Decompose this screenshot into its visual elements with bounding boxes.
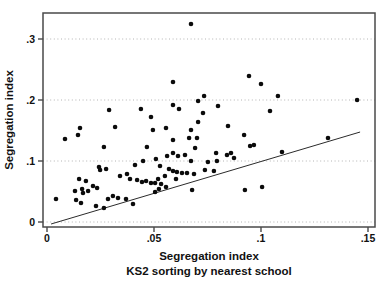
data-point bbox=[145, 145, 150, 150]
data-point bbox=[151, 128, 156, 133]
data-point bbox=[116, 196, 121, 201]
data-point bbox=[232, 156, 237, 161]
data-point bbox=[268, 109, 273, 114]
data-point bbox=[189, 159, 194, 164]
data-point bbox=[153, 190, 158, 195]
scatter-chart: 0.1.2.30.05.1.15 Segregation index Segre… bbox=[0, 0, 389, 294]
data-point bbox=[164, 185, 169, 190]
data-point bbox=[154, 157, 159, 162]
data-point bbox=[104, 167, 109, 172]
data-point bbox=[326, 136, 331, 141]
data-point bbox=[141, 159, 146, 164]
data-point bbox=[195, 136, 200, 141]
data-point bbox=[171, 103, 176, 108]
data-point bbox=[171, 151, 176, 156]
y-tick-label: .3 bbox=[26, 33, 35, 45]
data-point bbox=[113, 125, 118, 130]
data-point bbox=[78, 126, 83, 131]
data-point bbox=[189, 128, 194, 133]
data-point bbox=[202, 94, 207, 99]
y-tick-label: .1 bbox=[26, 155, 35, 167]
data-point bbox=[201, 111, 206, 116]
x-axis-subtitle: KS2 sorting by nearest school bbox=[43, 265, 375, 277]
data-point bbox=[91, 184, 96, 189]
data-point bbox=[189, 22, 194, 27]
data-point bbox=[133, 163, 138, 168]
data-point bbox=[280, 150, 285, 155]
data-point bbox=[79, 201, 84, 206]
data-point bbox=[171, 80, 176, 85]
plot-frame bbox=[43, 13, 375, 227]
data-point bbox=[167, 167, 172, 172]
data-point bbox=[149, 181, 154, 186]
data-point bbox=[102, 145, 107, 150]
data-point bbox=[107, 108, 112, 113]
data-point bbox=[95, 186, 100, 191]
data-point bbox=[229, 151, 234, 156]
data-point bbox=[97, 165, 102, 170]
data-point bbox=[73, 189, 78, 194]
data-point bbox=[243, 188, 248, 193]
data-point bbox=[131, 202, 136, 207]
data-point bbox=[225, 153, 230, 158]
data-point bbox=[171, 169, 176, 174]
y-tick-label: .2 bbox=[26, 94, 35, 106]
data-point bbox=[177, 107, 182, 112]
data-point bbox=[144, 179, 149, 184]
data-point bbox=[124, 197, 129, 202]
data-point bbox=[149, 115, 154, 120]
data-point bbox=[165, 154, 170, 159]
data-point bbox=[84, 179, 89, 184]
data-point bbox=[74, 198, 79, 203]
data-point bbox=[86, 189, 91, 194]
data-point bbox=[77, 177, 82, 182]
data-point bbox=[118, 174, 123, 179]
data-point bbox=[196, 120, 201, 125]
data-point bbox=[54, 197, 59, 202]
data-point bbox=[157, 187, 162, 192]
data-point bbox=[63, 137, 68, 142]
data-point bbox=[187, 136, 192, 141]
data-point bbox=[260, 185, 265, 190]
data-point bbox=[153, 181, 158, 186]
data-point bbox=[106, 197, 111, 202]
data-point bbox=[196, 99, 201, 104]
data-point bbox=[216, 104, 221, 109]
data-point bbox=[183, 153, 188, 158]
data-point bbox=[158, 164, 163, 169]
data-point bbox=[128, 177, 133, 182]
data-point bbox=[242, 133, 247, 138]
data-point bbox=[94, 204, 99, 209]
data-point bbox=[76, 133, 81, 138]
data-point bbox=[125, 172, 130, 177]
data-point bbox=[206, 160, 211, 165]
y-tick-label: 0 bbox=[29, 216, 35, 228]
data-point bbox=[135, 178, 140, 183]
data-point bbox=[276, 94, 281, 99]
x-tick-label: .1 bbox=[257, 232, 266, 244]
data-point bbox=[259, 82, 264, 87]
data-point bbox=[190, 188, 195, 193]
data-point bbox=[156, 177, 161, 182]
data-point bbox=[214, 151, 219, 156]
data-point bbox=[159, 182, 164, 187]
data-point bbox=[140, 180, 145, 185]
data-point bbox=[247, 74, 252, 79]
data-point bbox=[174, 177, 179, 182]
data-point bbox=[212, 169, 217, 174]
data-point bbox=[164, 126, 169, 131]
data-point bbox=[226, 124, 231, 129]
data-point bbox=[203, 168, 208, 173]
x-tick-label: .05 bbox=[147, 232, 162, 244]
data-point bbox=[175, 170, 180, 175]
data-point bbox=[80, 187, 85, 192]
reference-line bbox=[51, 132, 360, 224]
data-point bbox=[252, 143, 257, 148]
data-point bbox=[171, 138, 176, 143]
data-point bbox=[355, 98, 360, 103]
data-point bbox=[81, 191, 86, 196]
data-point bbox=[176, 154, 181, 159]
x-tick-label: .15 bbox=[361, 232, 376, 244]
x-axis-title: Segregation index bbox=[43, 250, 375, 262]
data-point bbox=[193, 146, 198, 151]
